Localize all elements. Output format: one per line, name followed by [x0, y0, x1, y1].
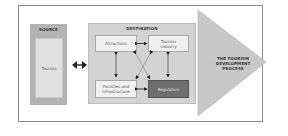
- double-arrow-icon: [72, 61, 87, 69]
- process-arrow-label: THE TOURISM DEVELOPMENT PROCESS: [206, 56, 260, 71]
- source-title: SOURCE: [30, 27, 67, 32]
- tourists-node: Tourists: [35, 38, 63, 98]
- tourists-label: Tourists: [41, 66, 56, 71]
- process-line-3: PROCESS: [206, 66, 260, 71]
- connection-arrows: [88, 23, 196, 104]
